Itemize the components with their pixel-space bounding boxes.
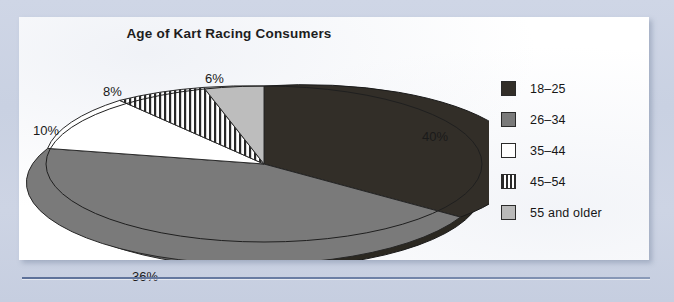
legend-item-18-25: 18–25 — [501, 73, 602, 104]
legend-swatch-45-54 — [501, 174, 516, 189]
chart-panel: Age of Kart Racing Consumers — [19, 17, 649, 260]
pie-label-45-54: 8% — [103, 84, 122, 99]
legend: 18–25 26–34 35–44 45–54 55 and older — [501, 73, 602, 228]
legend-swatch-35-44 — [501, 143, 516, 158]
pie-label-55-older: 6% — [205, 71, 224, 86]
legend-label-18-25: 18–25 — [530, 82, 566, 96]
pie-label-18-25: 40% — [422, 129, 448, 144]
pie-chart-svg — [19, 17, 489, 260]
legend-swatch-18-25 — [501, 81, 516, 96]
legend-label-55-older: 55 and older — [530, 206, 602, 220]
legend-item-55-older: 55 and older — [501, 197, 602, 228]
legend-label-45-54: 45–54 — [530, 175, 566, 189]
pie-chart: 40% 36% 10% 8% 6% — [19, 17, 489, 260]
legend-swatch-55-older — [501, 205, 516, 220]
pie-label-35-44: 10% — [33, 123, 59, 138]
legend-item-35-44: 35–44 — [501, 135, 602, 166]
legend-swatch-26-34 — [501, 112, 516, 127]
legend-item-45-54: 45–54 — [501, 166, 602, 197]
legend-label-26-34: 26–34 — [530, 113, 566, 127]
legend-label-35-44: 35–44 — [530, 144, 566, 158]
page-rule-highlight — [22, 279, 650, 280]
legend-item-26-34: 26–34 — [501, 104, 602, 135]
